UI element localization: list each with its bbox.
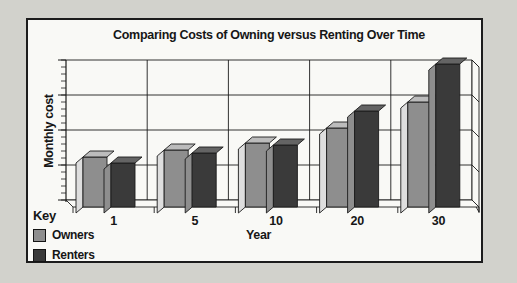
bar-side-owners-year-1 [76,157,83,213]
legend-item-label: Renters [52,248,95,262]
x-tick-label: 5 [191,214,198,228]
x-tick-label: 30 [432,214,446,228]
bar-side-owners-year-5 [157,150,164,213]
x-tick-label: 20 [351,214,365,228]
legend: Key Owners Renters [33,208,95,268]
bar-side-renters-year-10 [266,145,273,213]
figure-3d-bar-chart: 15102030 Comparing Costs of Owning versu… [0,0,517,283]
chart-title: Comparing Costs of Owning versus Renting… [66,28,472,42]
x-tick-label: 10 [269,214,283,228]
bar-side-owners-year-20 [320,128,327,213]
bar-renters-year-20 [355,111,379,207]
bar-side-renters-year-20 [348,111,355,213]
bar-owners-year-20 [327,128,351,207]
bar-renters-year-30 [436,64,460,207]
owners-color-swatch [33,229,46,242]
legend-heading: Key [33,208,95,223]
bar-owners-year-30 [408,102,432,207]
renters-color-swatch [33,249,46,262]
bar-side-owners-year-10 [238,143,245,213]
bar-side-renters-year-1 [104,163,111,213]
x-tick-label: 1 [110,214,117,228]
bar-owners-year-1 [83,157,107,207]
bar-side-renters-year-30 [429,64,436,213]
y-axis-label: Monthly cost [42,56,56,206]
legend-item-renters: Renters [33,248,95,262]
x-axis-label: Year [186,228,331,242]
legend-item-owners: Owners [33,228,95,242]
bar-renters-year-1 [111,163,135,207]
legend-item-label: Owners [52,228,94,242]
bar-side-owners-year-30 [401,102,408,213]
bar-renters-year-5 [192,153,216,207]
bar-owners-year-10 [245,143,269,207]
bar-side-renters-year-5 [185,153,192,213]
bar-renters-year-10 [273,145,297,207]
bar-owners-year-5 [164,150,188,207]
